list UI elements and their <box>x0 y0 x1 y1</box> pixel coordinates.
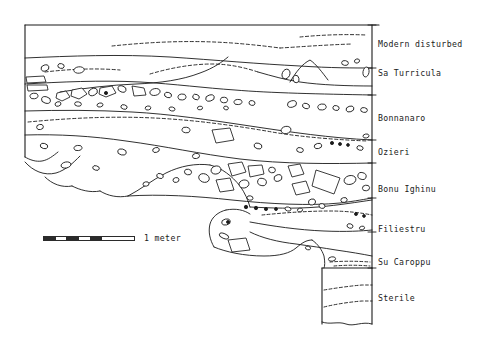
cave-floor-left-edge-2 <box>226 209 250 214</box>
stone <box>145 106 151 111</box>
boundary-filiestru-sucaroppu <box>250 222 372 231</box>
stone <box>152 147 160 153</box>
stone <box>363 215 366 218</box>
bedrock-ridge <box>128 164 210 196</box>
layer-label-bonu-ighinu: Bonu Ighinu <box>378 184 436 194</box>
bedrock-scallop-3 <box>72 186 100 192</box>
stone <box>36 124 44 131</box>
stone <box>248 165 264 177</box>
stone <box>228 238 250 252</box>
dashed-lens-modern-1 <box>112 42 280 48</box>
stone <box>254 206 257 209</box>
stratigraphic-section-figure: Modern disturbed Sa Turricula Bonnanaro … <box>0 0 483 350</box>
stone <box>292 181 310 195</box>
cave-floor-left-edge <box>209 210 226 247</box>
stone <box>210 165 222 175</box>
boundary-modern-saturricula <box>25 55 372 68</box>
stone <box>74 145 83 151</box>
bonnanaro-internal-curve-1 <box>60 57 228 92</box>
stone <box>328 256 336 261</box>
scale-segment <box>91 237 103 240</box>
stone <box>359 226 365 231</box>
dashed-sterile-2 <box>324 301 372 307</box>
stone <box>216 178 234 192</box>
bedrock-scallop-1 <box>25 156 80 174</box>
scale-segment <box>102 237 134 240</box>
stone <box>40 142 49 149</box>
layer-label-modern-disturbed: Modern disturbed <box>378 39 462 49</box>
stone <box>220 97 228 104</box>
bedrock-scallop-2 <box>45 177 72 187</box>
stone <box>264 207 267 210</box>
dashed-ozieri-top <box>28 117 368 141</box>
stone <box>345 105 354 113</box>
dashed-sucaroppu-2 <box>334 265 370 266</box>
stone <box>296 147 304 153</box>
stone <box>343 174 357 185</box>
stone <box>339 143 342 146</box>
dashed-sucaroppu-1 <box>330 261 370 262</box>
stone <box>173 177 180 183</box>
layer-label-sa-turricula: Sa Turricula <box>378 68 441 78</box>
stone <box>292 75 300 84</box>
stone <box>54 101 61 107</box>
stone <box>104 91 107 94</box>
stone <box>238 179 249 189</box>
stone <box>340 197 347 203</box>
stone <box>60 161 71 169</box>
stone <box>73 66 84 73</box>
stone <box>314 143 323 150</box>
stone <box>164 91 172 98</box>
stone <box>347 144 350 147</box>
stone <box>197 172 210 184</box>
stone <box>244 205 247 208</box>
sondage-bottom-ragged <box>322 322 372 325</box>
stone <box>30 93 39 100</box>
dashed-lens-modern-3 <box>300 35 366 37</box>
stone <box>227 221 230 224</box>
stone <box>92 165 100 171</box>
stone <box>354 58 360 64</box>
stone <box>40 64 49 72</box>
stone <box>169 106 176 111</box>
stone <box>356 145 363 151</box>
stone <box>312 170 340 194</box>
scale-bar <box>43 236 135 241</box>
bonnanaro-internal-curve-2 <box>258 72 372 86</box>
stone <box>143 181 150 186</box>
stone <box>197 106 203 110</box>
stone <box>57 63 64 69</box>
scale-segment <box>44 237 56 240</box>
bedrock-scallop-4 <box>100 191 128 197</box>
stone <box>182 127 191 134</box>
stone <box>218 232 229 240</box>
bedrock-wall-left <box>25 152 58 161</box>
dashed-lens-modern-2 <box>280 44 352 48</box>
stone <box>317 103 326 110</box>
stone <box>355 213 358 216</box>
stone <box>247 195 254 200</box>
stone <box>273 174 283 183</box>
stone <box>249 100 256 106</box>
stone <box>330 141 333 144</box>
dashed-sterile-1 <box>324 285 372 290</box>
stone <box>27 85 48 91</box>
scale-label: 1 meter <box>144 233 181 243</box>
stone <box>132 86 146 96</box>
stone <box>302 102 311 109</box>
stone <box>205 94 215 102</box>
stone <box>228 162 246 176</box>
scale-segment <box>67 237 79 240</box>
stone <box>212 128 234 143</box>
scale-segment <box>56 237 68 240</box>
stone <box>97 102 104 107</box>
stone <box>257 177 267 186</box>
stone <box>234 99 242 105</box>
stone <box>71 88 87 99</box>
stone <box>178 93 187 100</box>
stone <box>285 206 292 211</box>
layer-label-filiestru: Filiestru <box>378 224 426 234</box>
stone <box>99 86 116 97</box>
stone <box>117 148 127 156</box>
stone <box>223 106 229 111</box>
